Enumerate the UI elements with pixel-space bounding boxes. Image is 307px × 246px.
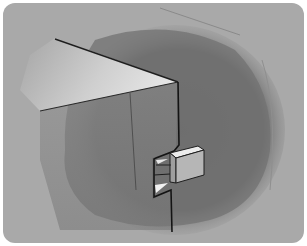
- box-corner-sketch: [3, 3, 304, 243]
- illustration-panel: [3, 3, 304, 243]
- tab-block-front: [170, 153, 176, 183]
